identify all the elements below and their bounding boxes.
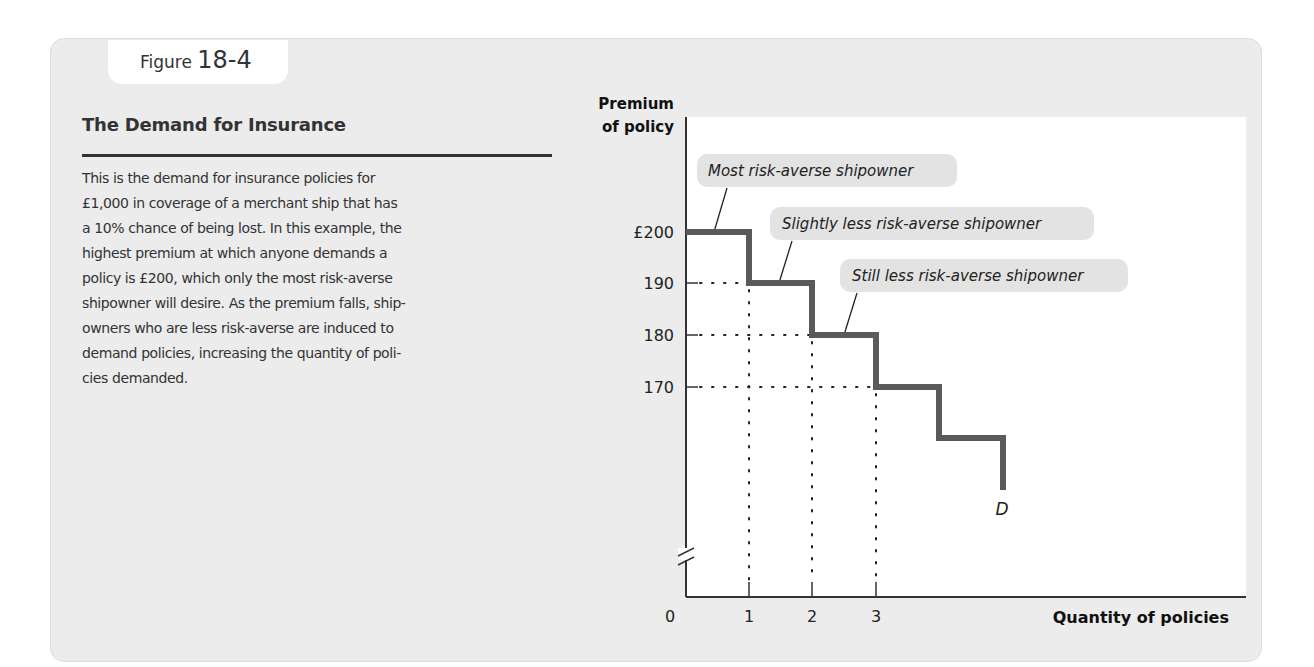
x-axis-label: Quantity of policies <box>1053 608 1229 627</box>
y-tick-label: 190 <box>643 274 674 293</box>
y-tick-label: £200 <box>633 223 674 242</box>
y-axis-label-line-2: of policy <box>602 118 674 136</box>
y-axis-label-line-1: Premium <box>598 95 674 113</box>
y-tick-label: 180 <box>643 326 674 345</box>
annotation-text: Most risk-averse shipowner <box>708 162 914 180</box>
x-tick-label: 3 <box>871 607 881 626</box>
annotation-text: Slightly less risk-averse shipowner <box>782 215 1042 233</box>
plot-area <box>686 117 1246 597</box>
demand-chart: Premium of policy £200 190 180 170 0 1 2… <box>0 0 1314 667</box>
annotation-text: Still less risk-averse shipowner <box>852 267 1084 285</box>
x-tick-label: 1 <box>744 607 754 626</box>
x-tick-label: 0 <box>665 607 675 626</box>
y-tick-label: 170 <box>643 378 674 397</box>
x-tick-label: 2 <box>807 607 817 626</box>
curve-label-d: D <box>995 499 1008 519</box>
